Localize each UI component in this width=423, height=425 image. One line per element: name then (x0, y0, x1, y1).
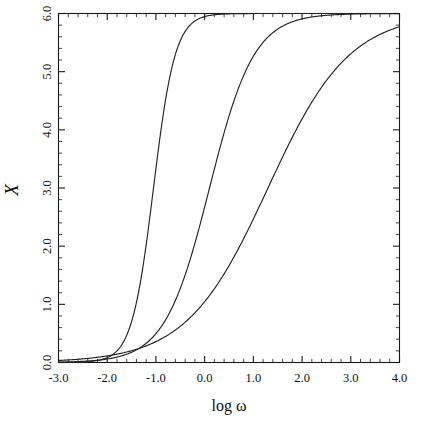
y-tick-label: 6.0 (40, 6, 54, 22)
y-tick-label: 4.0 (40, 122, 54, 138)
x-tick-label: -2.0 (97, 371, 117, 385)
plot-frame (59, 14, 400, 363)
x-tick-label: 2.0 (294, 371, 310, 385)
curve-shallow (59, 27, 400, 361)
y-tick-label: 5.0 (40, 64, 54, 80)
minor-ticks (59, 14, 400, 363)
x-tick-label: 0.0 (197, 371, 213, 385)
x-axis-title: log ω (212, 397, 247, 415)
y-tick-label: 2.0 (40, 238, 54, 254)
data-curves (59, 14, 400, 363)
x-tick-label: 1.0 (246, 371, 262, 385)
y-tick-label: 1.0 (40, 297, 54, 313)
curve-steep (59, 14, 400, 363)
y-tick-label: 0.0 (40, 355, 54, 371)
x-tick-labels: -3.0-2.0-1.00.01.02.03.04.0 (49, 371, 408, 385)
x-tick-label: -3.0 (49, 371, 69, 385)
curve-medium (59, 14, 400, 363)
x-tick-label: 3.0 (343, 371, 359, 385)
y-tick-label: 3.0 (40, 180, 54, 196)
y-axis-title: X (1, 183, 22, 197)
major-ticks (59, 14, 400, 363)
y-tick-labels: 0.01.02.03.04.05.06.0 (40, 6, 54, 371)
x-tick-label: 4.0 (392, 371, 408, 385)
x-tick-label: -1.0 (146, 371, 166, 385)
chart-plot-area: -3.0-2.0-1.00.01.02.03.04.0 0.01.02.03.0… (0, 0, 423, 425)
chart-figure: -3.0-2.0-1.00.01.02.03.04.0 0.01.02.03.0… (0, 0, 423, 425)
